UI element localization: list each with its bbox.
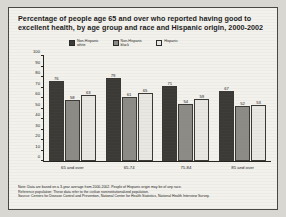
bar-value-label: 52: [240, 101, 245, 106]
x-axis-category-label: 75-84: [158, 165, 215, 170]
legend-swatch-hispanic: [156, 40, 162, 46]
x-axis-category-label: 65 and over: [44, 165, 101, 170]
bar: 65: [138, 93, 153, 161]
legend-swatch-non-hispanic-black: [113, 40, 119, 46]
bar-value-label: 71: [168, 81, 173, 86]
bar: 61: [122, 97, 137, 161]
x-axis-category-label: 85 and over: [214, 165, 271, 170]
bar-value-label: 61: [127, 92, 132, 97]
bar: 63: [81, 95, 96, 161]
legend-swatch-non-hispanic-white: [69, 40, 75, 46]
y-axis-tick-label: 0: [38, 154, 40, 159]
bar: 53: [251, 105, 266, 161]
bar-group: 76586365 and over: [44, 56, 101, 161]
bar-value-label: 53: [256, 100, 261, 105]
bar: 54: [178, 104, 193, 161]
bar-value-label: 63: [86, 90, 91, 95]
bar: 59: [194, 99, 209, 161]
bar-group: 67525385 and over: [214, 56, 271, 161]
bar: 52: [235, 106, 250, 161]
bar: 79: [106, 78, 121, 161]
bar-value-label: 58: [70, 95, 75, 100]
legend-item-hispanic: Hispanic: [156, 39, 178, 46]
y-axis-tick-label: 20: [35, 133, 40, 138]
figure-panel: Percentage of people age 65 and over who…: [8, 7, 278, 210]
chart-legend: Non-Hispanic white Non-Hispanic black Hi…: [69, 39, 271, 53]
legend-item-non-hispanic-white: Non-Hispanic white: [69, 39, 99, 48]
plot-area: 0102030405060708090100 76586365 and over…: [43, 56, 271, 162]
bar: 76: [49, 81, 64, 161]
bar-group: 71545975-84: [158, 56, 215, 161]
y-axis-tick-label: 100: [33, 49, 40, 54]
bar-value-label: 67: [224, 86, 229, 91]
y-axis-tick-label: 10: [35, 143, 40, 148]
y-axis-tick-label: 60: [35, 91, 40, 96]
legend-label-non-hispanic-black: Non-Hispanic black: [121, 39, 143, 48]
y-axis-tick-label: 30: [35, 122, 40, 127]
chart-notes: Note: Data are based on a 3-year average…: [18, 185, 270, 199]
bar-value-label: 54: [184, 99, 189, 104]
bar-group: 79616565-74: [101, 56, 158, 161]
bar-groups: 76586365 and over79616565-7471545975-846…: [44, 56, 271, 161]
bar-value-label: 79: [111, 73, 116, 78]
x-axis-category-label: 65-74: [101, 165, 158, 170]
legend-item-non-hispanic-black: Non-Hispanic black: [113, 39, 143, 48]
bar: 71: [162, 86, 177, 161]
bar-value-label: 59: [200, 94, 205, 99]
y-axis-tick-label: 50: [35, 101, 40, 106]
y-axis-tick-label: 40: [35, 112, 40, 117]
chart-title: Percentage of people age 65 and over who…: [18, 14, 269, 32]
bar: 58: [65, 100, 80, 161]
y-axis-tick-label: 70: [35, 80, 40, 85]
legend-label-hispanic: Hispanic: [164, 39, 178, 43]
y-axis-tick-label: 80: [35, 70, 40, 75]
note-line-3: Source: Centers for Disease Control and …: [18, 194, 270, 199]
bar-value-label: 76: [54, 76, 59, 81]
legend-label-non-hispanic-white: Non-Hispanic white: [77, 39, 99, 48]
bar-value-label: 65: [143, 88, 148, 93]
bar: 67: [219, 91, 234, 161]
y-axis-tick-label: 90: [35, 59, 40, 64]
